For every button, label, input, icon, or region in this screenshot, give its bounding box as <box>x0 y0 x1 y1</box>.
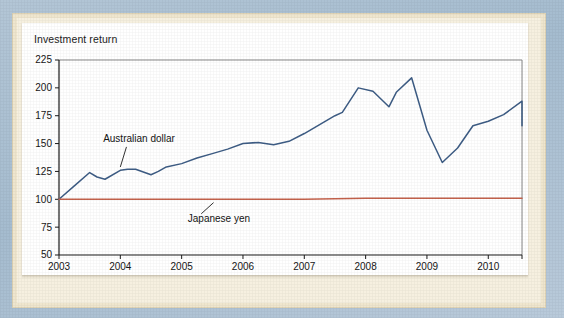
figure-root: Investment return 5075100125150175200225… <box>0 0 564 318</box>
x-tick-label: 2010 <box>477 261 500 272</box>
x-tick-label: 2005 <box>171 261 194 272</box>
plot-border <box>59 60 522 255</box>
y-axis: 5075100125150175200225 <box>35 54 59 260</box>
annotation-leader-line <box>120 147 126 167</box>
panel-shadow <box>22 275 528 279</box>
y-tick-label: 50 <box>41 249 53 260</box>
annotation-label: Australian dollar <box>103 133 175 144</box>
plot-frame <box>59 60 522 255</box>
y-tick-label: 225 <box>35 54 52 65</box>
y-tick-label: 200 <box>35 82 52 93</box>
y-tick-label: 100 <box>35 194 52 205</box>
annotations-group: Australian dollarJapanese yen <box>103 133 250 223</box>
x-tick-label: 2003 <box>48 261 71 272</box>
y-tick-label: 75 <box>41 222 53 233</box>
x-tick-label: 2006 <box>232 261 255 272</box>
series-line-japanese-yen <box>59 198 522 199</box>
y-tick-label: 150 <box>35 138 52 149</box>
line-chart: 5075100125150175200225 20032004200520062… <box>22 23 528 275</box>
x-axis: 20032004200520062007200820092010 <box>48 255 522 272</box>
annotation-label: Japanese yen <box>188 213 250 224</box>
x-tick-label: 2004 <box>109 261 132 272</box>
y-tick-label: 125 <box>35 166 52 177</box>
y-tick-label: 175 <box>35 110 52 121</box>
x-tick-label: 2007 <box>293 261 316 272</box>
x-tick-label: 2008 <box>354 261 377 272</box>
x-tick-label: 2009 <box>416 261 439 272</box>
